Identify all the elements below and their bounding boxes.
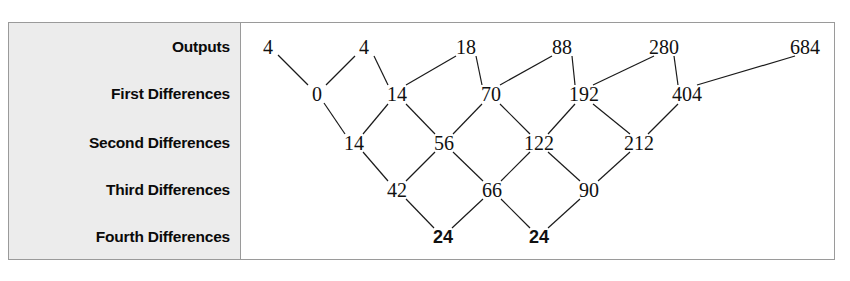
row-label-second-differences: Second Differences	[89, 135, 230, 151]
edge-line	[452, 199, 483, 228]
edge-line	[326, 56, 355, 85]
node-value: 4	[263, 37, 273, 57]
node-value: 192	[569, 84, 599, 104]
row-label-first-differences: First Differences	[111, 86, 230, 102]
node-value: 18	[456, 37, 476, 57]
edge-line	[501, 199, 530, 228]
node-value: 24	[529, 228, 549, 246]
edge-line	[501, 152, 530, 181]
node-value: 24	[433, 228, 453, 246]
row-label-fourth-differences: Fourth Differences	[96, 229, 230, 245]
row-label-outputs: Outputs	[172, 39, 230, 55]
edge-line	[363, 104, 388, 134]
edge-line	[548, 199, 580, 228]
edge-line	[572, 56, 575, 85]
edge-line	[374, 56, 388, 85]
edge-line	[593, 56, 654, 85]
edge-line	[406, 199, 434, 228]
node-value: 212	[624, 133, 654, 153]
edge-line	[548, 104, 575, 134]
edge-line	[674, 56, 678, 85]
edge-line	[324, 103, 345, 134]
edge-line	[593, 104, 630, 134]
node-value: 4	[359, 37, 369, 57]
row-label-third-differences: Third Differences	[106, 182, 230, 198]
difference-network: 4418882806840147019240414561222124266902…	[242, 23, 835, 259]
node-value: 70	[481, 84, 501, 104]
node-value: 0	[312, 84, 322, 104]
node-value: 14	[387, 84, 407, 104]
edge-line	[598, 152, 630, 181]
edge-line	[453, 104, 482, 134]
edge-line	[500, 104, 530, 134]
edge-line	[548, 152, 580, 181]
edge-line	[406, 56, 456, 85]
edge-line	[406, 152, 435, 181]
node-value: 404	[672, 84, 702, 104]
row-label-panel: Outputs First Differences Second Differe…	[9, 23, 241, 259]
edge-line	[476, 56, 482, 85]
node-value: 90	[579, 180, 599, 200]
node-value: 88	[552, 37, 572, 57]
node-value: 42	[387, 180, 407, 200]
edge-line	[278, 55, 308, 85]
node-value: 280	[649, 37, 679, 57]
node-value: 684	[790, 37, 820, 57]
node-value: 122	[524, 133, 554, 153]
node-value: 56	[434, 133, 454, 153]
node-value: 14	[344, 133, 364, 153]
edge-line	[648, 104, 678, 134]
edge-line	[500, 56, 552, 85]
diagram-stage: Outputs First Differences Second Differe…	[0, 0, 850, 281]
edge-line	[406, 104, 435, 134]
edge-line	[363, 152, 388, 181]
edge-line	[697, 56, 795, 85]
difference-table-frame: Outputs First Differences Second Differe…	[8, 22, 835, 260]
edge-line	[453, 152, 483, 181]
node-value: 66	[482, 180, 502, 200]
